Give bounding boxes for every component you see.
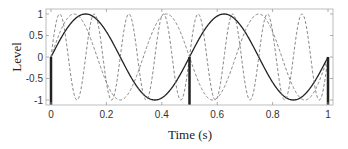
x-tick-label: 0 bbox=[48, 109, 54, 120]
y-tick-label: -0.5 bbox=[26, 73, 44, 84]
y-tick-label: 0.5 bbox=[29, 30, 43, 41]
x-tick-label: 0.4 bbox=[155, 109, 169, 120]
x-tick-label: 0.6 bbox=[210, 109, 224, 120]
y-tick-label: 1 bbox=[37, 9, 43, 20]
y-tick-label: -1 bbox=[34, 95, 43, 106]
y-tick-label: 0 bbox=[37, 52, 43, 63]
time-level-chart: 10.50-0.5-1 00.20.40.60.81 Time (s) Leve… bbox=[0, 0, 348, 149]
y-axis-label: Level bbox=[9, 42, 24, 72]
x-tick-label: 1 bbox=[325, 109, 331, 120]
x-axis-label: Time (s) bbox=[168, 127, 212, 142]
x-tick-label: 0.8 bbox=[266, 109, 280, 120]
x-tick-label: 0.2 bbox=[99, 109, 113, 120]
